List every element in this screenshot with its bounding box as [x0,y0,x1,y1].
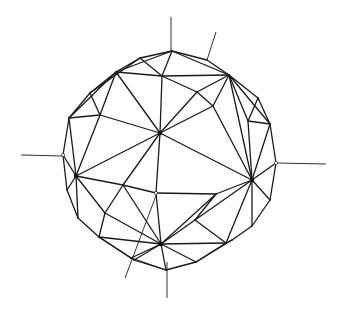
sphere-edge [140,58,162,76]
sphere-edge [69,115,100,118]
left-axis [21,155,64,156]
sphere-edge [116,72,162,76]
sphere-edge [252,124,270,180]
sphere-edge [76,176,123,185]
sphere-edge [162,76,197,92]
sphere-edge [76,115,100,176]
sphere-edge [105,185,123,213]
sphere-edge [160,133,252,180]
sphere-edge [161,220,195,244]
sphere-edge [270,163,276,200]
sphere-edge [100,115,160,133]
hub-vertex [158,131,162,135]
hub-vertex [250,178,254,182]
sphere-edge [131,258,166,270]
sphere-edge [197,92,213,106]
right-axis [277,163,326,164]
sphere-edge [162,75,229,76]
sphere-edge [67,176,76,190]
sphere-edge [76,176,78,218]
sphere-edge [196,243,226,262]
sphere-edge [78,218,99,237]
sphere-edge [161,244,196,262]
sphere-edge [232,226,252,240]
sphere-edge [248,121,270,124]
open-vertex-marker [61,153,64,156]
hub-vertex [74,174,78,178]
geodesic-sphere-drawing [0,0,340,309]
sphere-edge [161,244,166,270]
sphere-edge [248,98,258,121]
sphere-edge [116,72,160,133]
sphere-edge [156,193,216,194]
top-right-axis [207,32,216,60]
sphere-edge [252,163,276,180]
sphere-edge [76,176,105,213]
sphere-edge [252,200,270,226]
sphere-edge [160,76,162,133]
sphere-edge [252,180,270,200]
wireframe-edges [63,51,276,270]
geodesic-sphere-figure [0,0,340,309]
sphere-edge [123,133,160,185]
open-vertex-marker [154,191,157,194]
sphere-edge [172,51,229,75]
sphere-edge [270,124,276,163]
sphere-edge [63,118,69,155]
axis-lines [21,17,326,298]
sphere-edge [166,262,196,270]
sphere-edge [160,106,213,133]
sphere-edge [156,133,160,193]
sphere-edge [160,92,197,133]
sphere-edge [195,220,226,243]
hub-vertex [159,242,163,246]
sphere-edge [105,213,161,244]
sphere-edge [90,58,140,93]
sphere-edge [69,72,116,118]
sphere-edge [161,194,216,244]
sphere-edge [161,243,226,244]
sphere-edge [99,213,105,237]
sphere-edge [76,133,160,176]
open-vertex-marker [274,161,277,164]
